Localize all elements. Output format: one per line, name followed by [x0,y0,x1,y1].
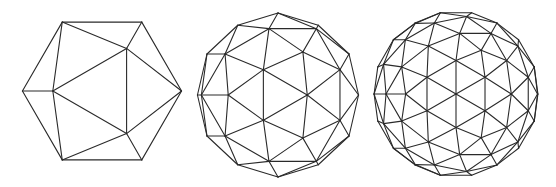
wireframe-edge [278,165,318,177]
wireframe-edge [485,111,507,128]
wireframe-edge [225,120,263,136]
wireframe-edge [528,67,534,77]
wireframe-edge [518,40,519,46]
wireframe-edge [316,29,349,54]
wireframe-edge [427,61,456,78]
wireframe-edge [238,161,269,164]
wireframe-edge [428,142,459,155]
wireframe-edge [384,94,386,124]
wireframe-edge [228,70,263,95]
wireframe-edge [481,138,491,155]
wireframe-edge [263,29,269,70]
wireframe-edge [263,52,303,70]
wireframe-edge [427,77,456,94]
wireframe-edge [456,94,485,111]
wireframe-edge [225,95,228,136]
wireframe-edge [427,111,428,142]
wireframe-edge [491,155,497,165]
wireframe-edge [434,23,459,33]
wireframe-edge [278,13,316,29]
wireframe-edge [427,46,428,77]
wireframe-edge [307,95,340,120]
wireframe-edge [460,33,482,50]
wireframe-edge [62,134,126,160]
wireframe-edge [53,48,127,91]
wireframe-edge [467,13,472,17]
wireframe-edge [225,136,238,165]
wireframe-edge [316,25,318,28]
wireframe-edge [519,121,535,148]
wireframe-edge [491,23,497,33]
wireframe-edge [497,23,518,46]
wireframe-edge [402,121,429,142]
wireframe-edge [225,54,228,95]
wireframe-edge [415,13,440,23]
wireframe-edge [228,95,263,120]
wireframe-edge [434,155,459,165]
wireframe-edge [386,94,402,121]
wireframe-edge [481,50,506,60]
wireframe-edge [278,161,316,177]
wireframe-edge [374,94,383,124]
wireframe-edge [393,148,415,165]
wireframe-edge [405,148,434,165]
wireframe-edge [340,120,349,136]
wireframe-edge [460,155,467,172]
wireframe-edge [485,61,507,78]
wireframe-edge [427,111,456,128]
wireframe-edge [303,138,316,161]
wireframe-edge [460,16,467,33]
wireframe-edge [62,22,126,48]
wireframe-edge [142,91,182,160]
wireframe-edge [384,64,402,67]
wireframe-edge [269,29,303,52]
wireframe-edge [263,120,269,161]
wireframe-edge [427,94,456,111]
wireframe-edge [127,134,142,160]
wireframe-edge [53,91,62,160]
wireframe-edge [225,54,263,70]
wireframe-edge [456,127,481,137]
wireframe-edge [456,61,485,78]
wireframe-edge [393,23,415,40]
wireframe-edge [405,23,434,40]
wireframe-edge [225,136,269,161]
wireframe-edge [263,120,303,138]
wireframe-edge [225,25,238,54]
wireframe-edge [507,94,512,127]
wireframe-edge [22,22,62,91]
wireframe-edge [440,13,466,17]
geodesic-spheres-diagram [0,0,556,187]
wireframe-edge [406,94,427,111]
wireframe-edge [456,33,460,60]
wireframe-edge [238,25,269,28]
wireframe-edge [22,91,62,160]
wireframe-edge [519,40,535,67]
wireframe-edge [456,111,485,128]
wireframe-edge [316,136,349,161]
geodesic-sphere-frequency-3-wireframe [374,13,538,176]
wireframe-edge [460,138,482,155]
wireframe-edge [402,67,427,77]
icosahedron-wireframe [22,22,181,160]
wireframe-edge [434,165,466,172]
wireframe-edge [303,95,307,138]
wireframe-edge [402,111,427,121]
wireframe-edge [402,46,429,67]
wireframe-edge [405,142,428,148]
wireframe-edge [201,54,225,95]
wireframe-edge [53,22,62,91]
wireframe-edge [507,46,518,60]
wireframe-edge [303,29,316,52]
wireframe-edge [278,13,318,25]
wireframe-edge [384,64,386,94]
wireframe-edge [402,67,406,94]
wireframe-edge [303,52,307,95]
wireframe-edge [405,40,428,46]
wireframe-edge [507,127,518,141]
wireframe-edge [467,172,472,176]
wireframe-edge [127,91,182,134]
wireframe-edge [127,48,182,91]
wireframe-edge [384,40,394,65]
wireframe-edge [428,46,456,60]
